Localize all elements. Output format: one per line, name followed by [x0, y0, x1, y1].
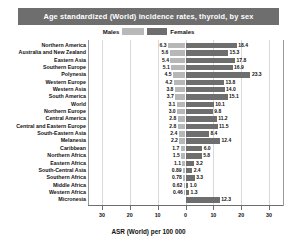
- value-label-male: 3.8: [166, 86, 173, 93]
- value-label-female: 13.8: [225, 79, 235, 86]
- category-label: Western Asia: [0, 86, 86, 93]
- x-tick: [241, 206, 242, 210]
- bar-female: [186, 43, 237, 48]
- value-label-male: 2.2: [171, 137, 178, 144]
- chart-row: Polynesia4.523.3: [0, 71, 297, 78]
- chart-root: Age standardized (World) incidence rates…: [0, 0, 297, 247]
- category-label: Micronesia: [0, 196, 86, 203]
- bar-female: [186, 183, 189, 188]
- bar-female: [186, 58, 236, 63]
- chart-row: South-Eastern Asia2.48.4: [0, 130, 297, 137]
- value-label-male: 2.4: [170, 130, 177, 137]
- legend-label-males: Males: [103, 29, 120, 35]
- value-label-male: 0.89: [172, 167, 182, 174]
- x-axis-title: ASR (World) per 100 000: [0, 228, 297, 235]
- value-label-male: 6.3: [159, 42, 166, 49]
- category-label: Northern America: [0, 42, 86, 49]
- value-label-female: 12.3: [221, 196, 231, 203]
- chart-row: Southern Africa0.783.3: [0, 174, 297, 181]
- legend-swatch-females: [147, 28, 167, 35]
- chart-row: Eastern Africa1.13.2: [0, 160, 297, 167]
- value-label-female: 6.0: [204, 145, 211, 152]
- chart-title-banner: Age standardized (World) incidence rates…: [18, 8, 279, 25]
- x-tick-label: 30: [266, 212, 272, 218]
- value-label-male: 2.8: [169, 115, 176, 122]
- bar-rows: Northern America6.318.4Australia and New…: [0, 42, 297, 204]
- category-label: Southern Europe: [0, 64, 86, 71]
- bar-female: [186, 80, 224, 85]
- bar-female: [186, 161, 195, 166]
- bar-female: [186, 175, 195, 180]
- value-label-male: 0.78: [172, 174, 182, 181]
- value-label-female: 5.8: [203, 152, 210, 159]
- value-label-female: 23.3: [252, 71, 262, 78]
- bar-male: [170, 58, 185, 63]
- category-label: Polynesia: [0, 71, 86, 78]
- x-tick-label: 20: [127, 212, 133, 218]
- bar-female: [186, 94, 228, 99]
- page-title: Age standardized (World) incidence rates…: [43, 12, 253, 21]
- value-label-female: 9.8: [214, 108, 221, 115]
- bar-male: [170, 50, 186, 55]
- category-label: Melanesia: [0, 137, 86, 144]
- category-label: South-Central Asia: [0, 167, 86, 174]
- legend-swatch-males: [122, 28, 144, 35]
- chart-row: Western Europe4.213.8: [0, 79, 297, 86]
- bar-female: [186, 50, 229, 55]
- value-label-male: 5.6: [161, 49, 168, 56]
- value-label-male: 1.1: [174, 160, 181, 167]
- value-label-male: 4.2: [165, 79, 172, 86]
- bar-male: [178, 124, 186, 129]
- chart-row: South-Central Asia0.892.4: [0, 167, 297, 174]
- x-tick: [213, 206, 214, 210]
- category-label: Northern Africa: [0, 152, 86, 159]
- value-label-female: 10.1: [215, 101, 225, 108]
- chart-row: Middle Africa0.621.0: [0, 182, 297, 189]
- bar-female: [186, 168, 193, 173]
- category-label: Western Europe: [0, 79, 86, 86]
- value-label-male: 4.5: [165, 71, 172, 78]
- x-tick-label: 30: [99, 212, 105, 218]
- category-label: South America: [0, 93, 86, 100]
- bar-female: [186, 87, 225, 92]
- category-label: Middle Africa: [0, 182, 86, 189]
- value-label-male: 5.1: [163, 64, 170, 71]
- category-label: South-Eastern Asia: [0, 130, 86, 137]
- x-tick: [186, 206, 187, 210]
- category-label: Southern Africa: [0, 174, 86, 181]
- chart-legend: Males Females: [0, 28, 297, 35]
- chart-row: Western Asia3.814.0: [0, 86, 297, 93]
- x-tick-label: 0: [184, 212, 187, 218]
- chart-row: Northern Europe3.09.8: [0, 108, 297, 115]
- value-label-male: 2.8: [169, 123, 176, 130]
- bar-female: [186, 65, 233, 70]
- bar-female: [186, 197, 220, 202]
- bar-male: [175, 87, 186, 92]
- bar-female: [186, 190, 190, 195]
- bar-female: [186, 131, 209, 136]
- value-label-male: 0.62: [173, 182, 183, 189]
- value-label-male: 3.7: [167, 93, 174, 100]
- chart-row: South America3.715.1: [0, 93, 297, 100]
- bar-female: [186, 153, 202, 158]
- value-label-female: 15.3: [230, 49, 240, 56]
- category-label: World: [0, 101, 86, 108]
- category-label: Western Africa: [0, 189, 86, 196]
- bar-male: [178, 116, 186, 121]
- x-tick: [269, 206, 270, 210]
- category-label: Eastern Asia: [0, 57, 86, 64]
- legend-label-females: Females: [170, 29, 194, 35]
- bar-female: [186, 146, 203, 151]
- value-label-female: 2.4: [194, 167, 201, 174]
- value-label-female: 11.2: [218, 115, 227, 122]
- bar-male: [171, 65, 185, 70]
- chart-row: Eastern Asia5.417.8: [0, 57, 297, 64]
- x-tick: [102, 206, 103, 210]
- bar-male: [168, 43, 186, 48]
- bar-female: [186, 102, 214, 107]
- chart-row: Northern Africa1.55.8: [0, 152, 297, 159]
- chart-row: Caribbean1.76.0: [0, 145, 297, 152]
- chart-row: Southern Europe5.116.9: [0, 64, 297, 71]
- x-tick-label: 10: [210, 212, 216, 218]
- value-label-male: 5.4: [162, 57, 169, 64]
